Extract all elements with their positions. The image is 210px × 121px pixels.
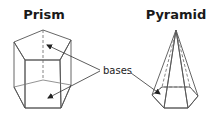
- geometry-diagram: Prism Pyramid bases: [0, 0, 210, 121]
- bases-arrow-prism-bottom: [48, 71, 100, 98]
- prism-title: Prism: [23, 7, 65, 22]
- prism-top-base: [14, 30, 71, 60]
- pyramid-face-front: [164, 30, 188, 108]
- pyramid-face-left: [152, 30, 176, 108]
- pyramid-title: Pyramid: [146, 7, 207, 22]
- bases-label: bases: [103, 65, 132, 76]
- pyramid-hidden-base-edges: [152, 87, 198, 96]
- prism-shape: [14, 30, 71, 108]
- prism-bottom-edges: [14, 85, 71, 108]
- bases-arrow-pyramid: [131, 73, 160, 94]
- bases-arrow-prism-top: [47, 45, 100, 70]
- pyramid-face-right: [176, 30, 198, 108]
- pyramid-shape: [152, 30, 198, 108]
- prism-hidden-bottom-edges: [14, 80, 71, 87]
